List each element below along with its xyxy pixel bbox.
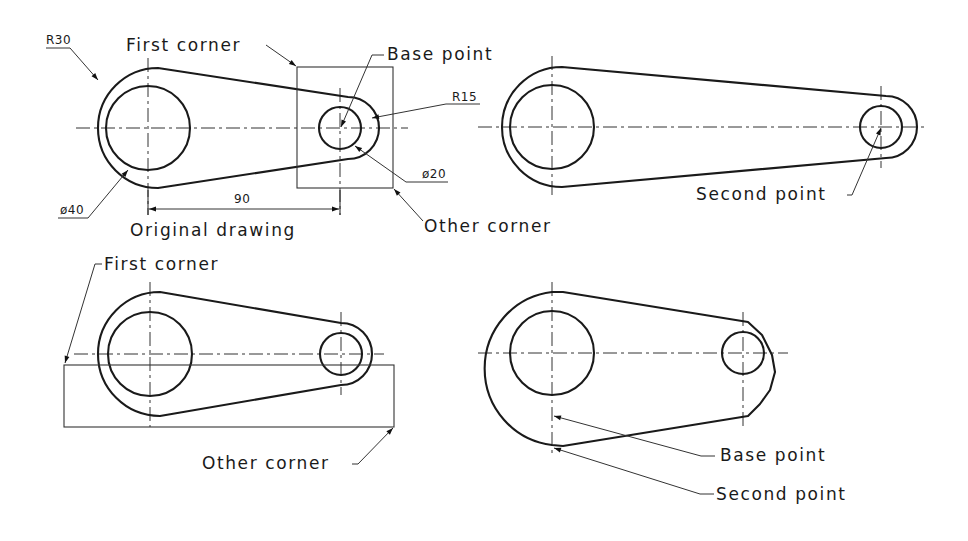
dia20-label: ø20 [422, 167, 446, 181]
panel-lower-stretched: Base point Second point [478, 282, 847, 504]
other-corner-label: Other corner [424, 216, 552, 236]
panel-original-drawing: R30 ø40 First corner Base point R15 ø20 … [46, 33, 552, 240]
first-corner-leader [266, 45, 296, 66]
dia40-label: ø40 [60, 203, 84, 217]
first-corner-label: First corner [104, 254, 219, 274]
r30-label: R30 [46, 33, 71, 47]
panel-stretched-result: Second point [478, 56, 925, 204]
second-point-label: Second point [716, 484, 847, 504]
first-corner-leader [65, 264, 102, 363]
r15-leader [372, 104, 480, 118]
r15-label: R15 [452, 90, 477, 104]
base-point-leader [554, 416, 715, 456]
second-point-label: Second point [696, 184, 827, 204]
other-corner-leader [352, 428, 393, 464]
stretch-command-diagram: R30 ø40 First corner Base point R15 ø20 … [0, 0, 968, 541]
r30-leader [46, 48, 98, 80]
first-corner-label: First corner [126, 35, 241, 55]
other-corner-leader [394, 189, 423, 221]
other-corner-label: Other corner [202, 453, 330, 473]
base-point-label: Base point [387, 44, 493, 64]
second-point-leader [554, 448, 714, 494]
panel-lower-selection: First corner Other corner [64, 254, 394, 473]
base-point-label: Base point [720, 445, 826, 465]
dim-90-value: 90 [234, 192, 250, 206]
original-drawing-caption: Original drawing [130, 220, 296, 240]
stretched-lever-outline [485, 292, 775, 446]
